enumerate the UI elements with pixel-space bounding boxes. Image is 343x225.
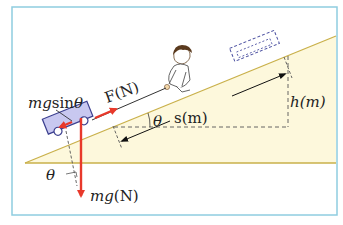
height-label: h(m) xyxy=(290,93,326,111)
angle-label-bottom: θ xyxy=(46,166,55,184)
weight-force-label: mg(N) xyxy=(90,187,139,205)
distance-label: s(m) xyxy=(174,109,208,127)
angle-label-top: θ xyxy=(153,112,162,130)
inclined-plane-diagram: θ s(m) h(m) F(N) mgsinθ mg(N) θ xyxy=(0,0,343,225)
parallel-force-label: mgsinθ xyxy=(28,94,83,112)
